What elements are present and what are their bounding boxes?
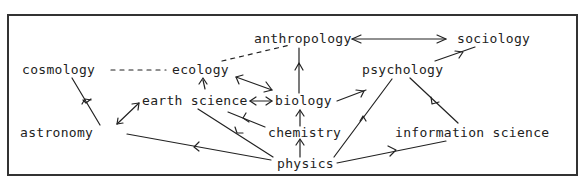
edge-biology-psychology: [337, 90, 366, 101]
edge-psychology-sociology: [435, 47, 475, 61]
edge-earthscience-biology: [250, 97, 272, 105]
edge-chemistry-biology: [296, 110, 304, 126]
node-astronomy: astronomy: [20, 125, 93, 140]
node-chemistry: chemistry: [268, 125, 341, 140]
edge-physics-informationscience: [337, 141, 446, 163]
node-biology: biology: [275, 93, 332, 108]
node-anthropology: anthropology: [254, 31, 352, 46]
edge-physics-chemistry: [296, 139, 304, 157]
edge-chemistry-earthscience: [228, 112, 265, 127]
node-earth-science: earth science: [142, 93, 248, 108]
node-psychology: psychology: [362, 62, 443, 77]
edge-informationscience-psychology: [410, 78, 458, 123]
edge-astronomy-cosmology: [72, 78, 100, 125]
node-sociology: sociology: [457, 31, 530, 46]
node-physics: physics: [277, 156, 334, 171]
edge-ecology-anthropology: [222, 45, 290, 61]
node-cosmology: cosmology: [22, 62, 95, 77]
node-information-science: information science: [395, 125, 549, 140]
edge-biology-anthropology: [295, 48, 303, 93]
edge-ecology-biology: [236, 75, 272, 92]
edge-physics-earthscience: [198, 109, 273, 157]
edge-astronomy-earthscience: [117, 103, 139, 124]
node-ecology: ecology: [172, 62, 229, 77]
edge-physics-astronomy: [127, 134, 271, 160]
edge-anthropology-sociology: [352, 35, 446, 43]
edge-earthscience-ecology: [199, 78, 207, 89]
